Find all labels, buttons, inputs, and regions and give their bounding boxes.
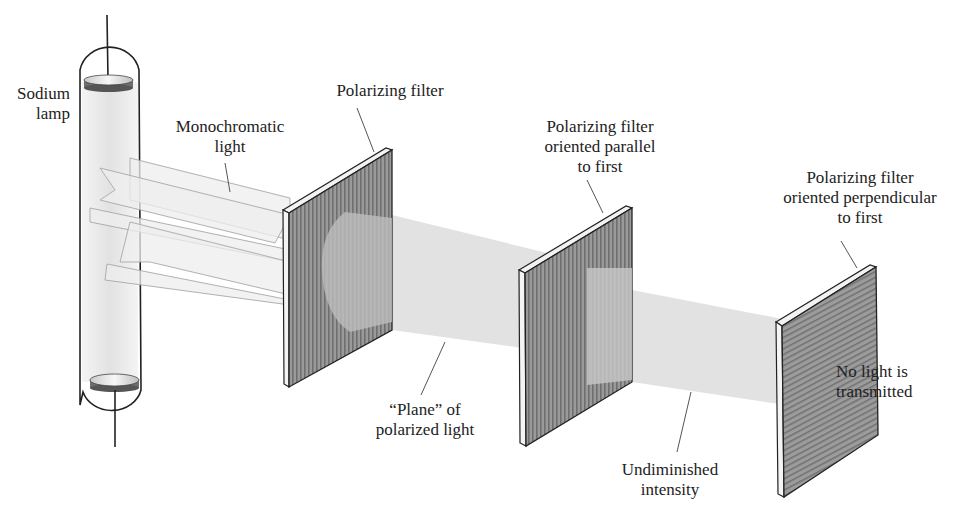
plane-leader	[421, 342, 445, 395]
lamp-top-electrode	[84, 75, 133, 85]
polarizing-filter-1-label: Polarizing filter	[300, 81, 480, 101]
polarizing-filter-3-label-line3: to first	[760, 208, 960, 228]
filter-2-light-spot	[587, 268, 632, 385]
no-light-transmitted-label-line2: transmitted	[836, 382, 940, 402]
polarizing-filter-3-label-line2: oriented perpendicular	[760, 188, 960, 208]
no-light-transmitted-label: No light is transmitted	[836, 362, 940, 402]
sodium-lamp-label-line2: lamp	[4, 104, 70, 124]
polarizing-filter-3-label-line1: Polarizing filter	[760, 168, 960, 188]
undiminished-intensity-label-line2: intensity	[600, 480, 740, 500]
polarizing-filter-2-label: Polarizing filter oriented parallel to f…	[520, 117, 680, 177]
polarizing-filter-2-label-line1: Polarizing filter	[520, 117, 680, 137]
polarizing-filter-1-label-line1: Polarizing filter	[300, 81, 480, 101]
plane-polarized-light-label: “Plane” of polarized light	[355, 400, 495, 440]
undiminished-intensity-label: Undiminished intensity	[600, 460, 740, 500]
filter-2-leader	[587, 180, 603, 213]
monochromatic-light-label-line2: light	[155, 137, 305, 157]
no-light-transmitted-label-line1: No light is	[836, 362, 940, 382]
polarizing-filter-2	[519, 206, 632, 446]
polarizing-filter-2-label-line2: oriented parallel	[520, 137, 680, 157]
monochromatic-light-label-line1: Monochromatic	[155, 117, 305, 137]
polarizing-filter-1	[283, 148, 392, 387]
polarizing-filter-3-label: Polarizing filter oriented perpendicular…	[760, 168, 960, 228]
polarizing-filter-2-label-line3: to first	[520, 157, 680, 177]
lamp-top-wire	[107, 15, 108, 80]
undiminished-leader	[677, 392, 691, 452]
filter-1-leader	[357, 108, 374, 152]
plane-polarized-light-label-line2: polarized light	[355, 420, 495, 440]
sodium-lamp-label: Sodium lamp	[4, 84, 70, 124]
monochromatic-light-label: Monochromatic light	[155, 117, 305, 157]
plane-polarized-light-label-line1: “Plane” of	[355, 400, 495, 420]
filter-3-leader	[841, 241, 857, 268]
undiminished-intensity-label-line1: Undiminished	[600, 460, 740, 480]
filter-1-side	[283, 210, 289, 387]
sodium-lamp-label-line1: Sodium	[4, 84, 70, 104]
lamp-bottom-electrode	[90, 374, 139, 386]
